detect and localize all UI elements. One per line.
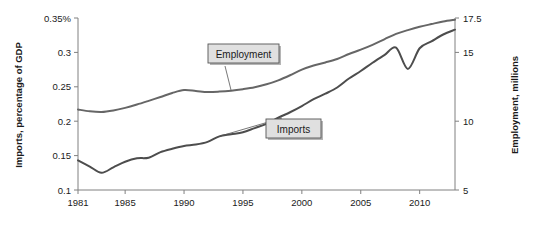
x-tick-label: 1981 [67, 197, 88, 208]
left-tick-label: 0.35% [44, 13, 71, 24]
right-tick-label: 15 [463, 47, 474, 58]
left-tick-label: 0.15 [53, 150, 72, 161]
x-tick-label: 1985 [115, 197, 136, 208]
callout-employment[interactable]: Employment [208, 44, 281, 65]
x-tick-label: 1990 [173, 197, 194, 208]
chart-container: 0.10.150.20.250.30.35% 5101517.5 1981198… [0, 0, 536, 233]
left-axis-title: Imports, percentage of GDP [13, 42, 24, 168]
callout-imports-label: Imports [277, 124, 310, 135]
right-tick-label: 5 [463, 185, 468, 196]
left-tick-label: 0.2 [58, 116, 71, 127]
left-tick-label: 0.25 [53, 81, 72, 92]
x-tick-label: 2010 [409, 197, 430, 208]
right-tick-label: 17.5 [463, 13, 482, 24]
callout-imports[interactable]: Imports [266, 119, 323, 140]
left-tick-label: 0.3 [58, 47, 71, 58]
right-axis-title: Employment, millions [509, 56, 520, 154]
line-chart: 0.10.150.20.250.30.35% 5101517.5 1981198… [0, 0, 536, 233]
x-tick-label: 2005 [350, 197, 371, 208]
x-tick-label: 2000 [291, 197, 312, 208]
callout-employment-label: Employment [216, 49, 272, 60]
x-tick-label: 1995 [232, 197, 253, 208]
left-tick-label: 0.1 [58, 185, 71, 196]
right-tick-label: 10 [463, 116, 474, 127]
